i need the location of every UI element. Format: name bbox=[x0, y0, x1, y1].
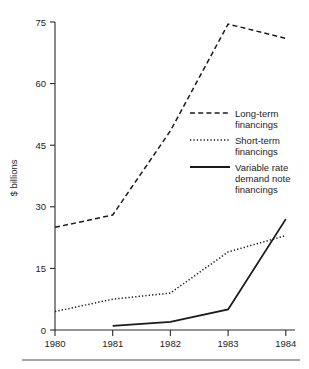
legend-label-vrdn-line1: Variable rate bbox=[235, 162, 288, 173]
legend-label-long-term-line1: Long-term bbox=[235, 108, 278, 119]
x-tick-label-1983: 1983 bbox=[218, 338, 239, 349]
y-axis-title: $ billions bbox=[8, 159, 19, 196]
y-tick-label-45: 45 bbox=[35, 140, 46, 151]
legend-entry-short-term[interactable]: Short-term financings bbox=[190, 135, 280, 157]
x-tick-label-1984: 1984 bbox=[275, 338, 296, 349]
x-tick-label-1980: 1980 bbox=[44, 338, 65, 349]
y-tick-label-60: 60 bbox=[35, 78, 46, 89]
legend-label-short-term-line1: Short-term bbox=[235, 135, 280, 146]
legend-entry-variable-rate-demand-note[interactable]: Variable rate demand note financings bbox=[190, 162, 290, 195]
x-tick-label-1981: 1981 bbox=[102, 338, 123, 349]
y-tick-label-0: 0 bbox=[41, 325, 46, 336]
x-tick-label-1982: 1982 bbox=[160, 338, 181, 349]
chart-figure: 75 60 45 30 15 0 $ billions 1980 1981 19… bbox=[0, 0, 309, 369]
series-line-variable-rate-demand-note bbox=[113, 219, 286, 326]
x-axis: 1980 1981 1982 1983 1984 bbox=[44, 330, 296, 349]
y-tick-label-15: 15 bbox=[35, 263, 46, 274]
y-tick-label-75: 75 bbox=[35, 17, 46, 28]
legend-label-short-term-line2: financings bbox=[235, 146, 278, 157]
line-chart-svg: 75 60 45 30 15 0 $ billions 1980 1981 19… bbox=[0, 0, 309, 369]
legend-label-vrdn-line3: financings bbox=[235, 184, 278, 195]
y-axis: 75 60 45 30 15 0 $ billions bbox=[8, 17, 55, 336]
legend-label-vrdn-line2: demand note bbox=[235, 173, 290, 184]
y-tick-label-30: 30 bbox=[35, 201, 46, 212]
legend-entry-long-term[interactable]: Long-term financings bbox=[190, 108, 278, 130]
legend: Long-term financings Short-term financin… bbox=[190, 108, 290, 195]
legend-label-long-term-line2: financings bbox=[235, 119, 278, 130]
